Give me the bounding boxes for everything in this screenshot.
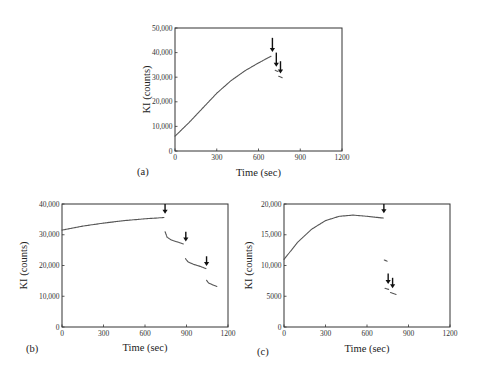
y-tick-label: 5000: [267, 292, 282, 301]
panel-label-c: (c): [257, 346, 269, 357]
x-tick-label: 300: [320, 329, 332, 338]
data-series-segment-2: [384, 260, 387, 261]
x-tick-label: 0: [282, 329, 286, 338]
plot-frame: [284, 204, 450, 327]
arrow-down-icon: [381, 204, 386, 213]
y-tick-label: 20,000: [261, 200, 282, 209]
y-tick-label: 10,000: [261, 261, 282, 270]
y-axis-title: KI (counts): [243, 241, 255, 290]
x-tick-label: 1200: [443, 329, 458, 338]
data-series-segment-4: [391, 293, 397, 295]
x-axis-title: Time (sec): [345, 343, 390, 355]
x-tick-label: 600: [361, 329, 373, 338]
arrow-down-icon: [390, 278, 395, 288]
chart-c-plot: 030060090012000500010,00015,00020,000Tim…: [0, 0, 479, 369]
data-series-segment-3: [385, 288, 389, 289]
x-tick-label: 900: [403, 329, 415, 338]
arrow-down-icon: [386, 273, 391, 283]
y-tick-label: 15,000: [261, 230, 282, 239]
chart-panel-c: 030060090012000500010,00015,00020,000Tim…: [0, 0, 479, 369]
y-tick-label: 0: [278, 323, 282, 332]
data-series-segment-1: [284, 215, 384, 259]
